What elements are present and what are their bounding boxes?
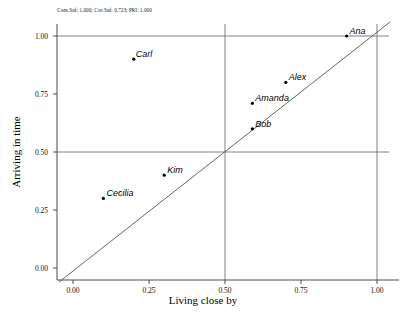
point-label-alex: Alex (289, 73, 307, 82)
point-label-bob: Bob (255, 120, 271, 129)
point-label-ana: Ana (350, 27, 366, 36)
y-tick-label-100: 1.00 (14, 32, 48, 41)
scatter-point-kim (163, 174, 166, 177)
x-axis-ticks (73, 280, 377, 284)
y-axis-title: Arriving in time (10, 92, 22, 212)
x-axis-title: Living close by (0, 294, 406, 306)
plot-canvas (0, 0, 406, 320)
scatter-point-bob (251, 127, 254, 130)
scatter-point-alex (284, 81, 287, 84)
point-label-kim: Kim (167, 166, 183, 175)
scatter-point-cecilia (102, 197, 105, 200)
scatter-point-ana (345, 34, 348, 37)
point-label-amanda: Amanda (255, 94, 289, 103)
xy-plot: Cons.Suf: 1.000; Cov.Suf: 0.723; PRI: 1.… (0, 0, 406, 320)
y-axis-ticks (53, 36, 57, 268)
y-tick-label-000: 0.00 (14, 264, 48, 273)
point-label-cecilia: Cecilia (106, 189, 133, 198)
scatter-point-amanda (251, 102, 254, 105)
point-label-carl: Carl (136, 50, 153, 59)
